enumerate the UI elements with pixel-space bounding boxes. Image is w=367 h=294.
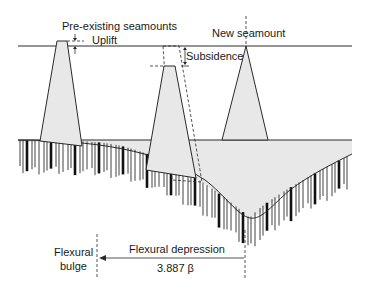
left-seamount <box>40 41 82 146</box>
subsided-seamount <box>146 66 196 178</box>
subsidence-arrowhead-bottom <box>183 62 187 65</box>
flexural-depression-label: Flexural depression <box>129 243 225 255</box>
subsidence-label: Subsidence <box>186 50 244 62</box>
flexural-bulge-label-line2: bulge <box>60 260 87 272</box>
depression-arrowhead <box>99 255 106 261</box>
flexural-bulge-label-line1: Flexural <box>54 246 93 258</box>
uplift-label: Uplift <box>92 34 117 46</box>
distance-label: 3.887 β <box>157 262 194 274</box>
uplift-arrowhead-top <box>73 38 77 41</box>
pre-existing-seamounts-label: Pre-existing seamounts <box>62 20 177 32</box>
new-seamount-label: New seamount <box>212 27 285 39</box>
